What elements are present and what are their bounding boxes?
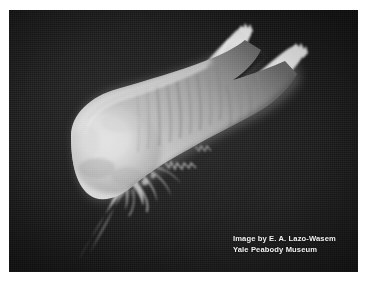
credit-line-institution: Yale Peabody Museum — [233, 245, 336, 256]
specimen-photograph: Image by E. A. Lazo-Wasem Yale Peabody M… — [9, 10, 358, 272]
photo-page: Image by E. A. Lazo-Wasem Yale Peabody M… — [0, 0, 371, 289]
credit-line-photographer: Image by E. A. Lazo-Wasem — [233, 234, 336, 245]
image-credit-caption: Image by E. A. Lazo-Wasem Yale Peabody M… — [233, 234, 336, 255]
specimen-figure — [9, 10, 358, 272]
